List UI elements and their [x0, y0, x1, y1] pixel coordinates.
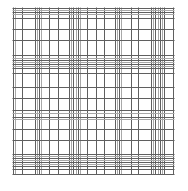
grid-pattern	[0, 0, 188, 191]
